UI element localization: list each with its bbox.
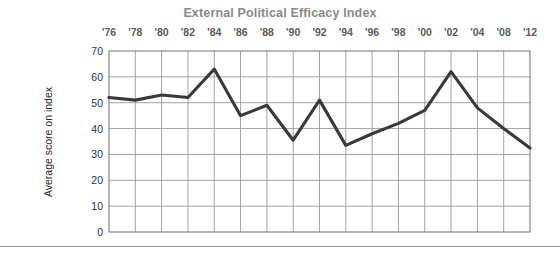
chart-figure: External Political Efficacy Index '76'78… (0, 0, 560, 257)
footer-divider (0, 246, 560, 247)
plot-area (0, 0, 560, 257)
